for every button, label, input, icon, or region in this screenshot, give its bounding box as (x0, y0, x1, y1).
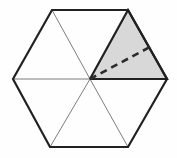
figure-container (0, 0, 177, 158)
hexagon-diagram (0, 0, 177, 158)
